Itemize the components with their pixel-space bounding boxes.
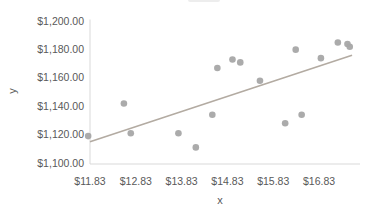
x-tick-label: $11.83 xyxy=(74,175,105,187)
scatter-chart: $1,200.00$1,180.00$1,160.00$1,140.00$1,1… xyxy=(0,0,367,218)
y-axis-tick-labels: $1,200.00$1,180.00$1,160.00$1,140.00$1,1… xyxy=(37,15,84,169)
x-tick-label: $12.83 xyxy=(120,175,152,187)
x-tick-label: $13.83 xyxy=(166,175,198,187)
x-tick-label: $16.83 xyxy=(303,175,335,187)
data-point[interactable] xyxy=(175,130,182,137)
scatter-points xyxy=(85,39,353,150)
data-point[interactable] xyxy=(292,46,299,53)
data-point[interactable] xyxy=(85,133,92,140)
x-tick-label: $15.83 xyxy=(257,175,289,187)
data-point[interactable] xyxy=(214,65,221,72)
y-tick-label: $1,200.00 xyxy=(37,15,84,27)
chart-container: $1,200.00$1,180.00$1,160.00$1,140.00$1,1… xyxy=(0,0,367,218)
data-point[interactable] xyxy=(298,112,305,119)
x-axis-title: x xyxy=(217,194,223,206)
data-point[interactable] xyxy=(318,55,325,62)
data-point[interactable] xyxy=(257,78,264,85)
y-tick-label: $1,140.00 xyxy=(37,100,84,112)
data-point[interactable] xyxy=(346,44,353,51)
y-tick-label: $1,100.00 xyxy=(37,157,84,169)
data-point[interactable] xyxy=(193,144,200,151)
x-tick-label: $14.83 xyxy=(211,175,243,187)
data-point[interactable] xyxy=(237,59,244,66)
y-axis-title: y xyxy=(6,88,18,94)
y-tick-label: $1,120.00 xyxy=(37,128,84,140)
x-axis-tick-labels: $11.83$12.83$13.83$14.83$15.83$16.83 xyxy=(74,175,335,187)
y-tick-label: $1,160.00 xyxy=(37,71,84,83)
trendline[interactable] xyxy=(90,55,352,141)
data-point[interactable] xyxy=(209,112,216,119)
data-point[interactable] xyxy=(121,100,128,107)
data-point[interactable] xyxy=(127,130,134,137)
y-tick-label: $1,180.00 xyxy=(37,43,84,55)
data-point[interactable] xyxy=(282,120,289,127)
data-point[interactable] xyxy=(229,56,236,63)
data-point[interactable] xyxy=(335,39,342,46)
